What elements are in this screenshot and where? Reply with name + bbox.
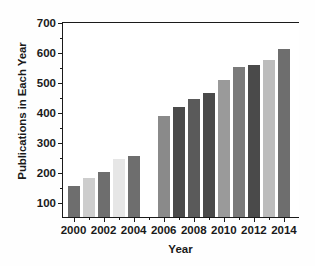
x-tick-minor	[269, 217, 270, 220]
x-tick-minor	[89, 217, 90, 220]
y-tick-label: 100	[37, 197, 56, 209]
y-tick-label: 500	[37, 77, 56, 89]
x-tick-major	[284, 217, 285, 222]
bar-2003	[113, 159, 125, 217]
x-tick-major	[224, 217, 225, 222]
bar-2010	[218, 80, 230, 217]
y-tick-major	[58, 173, 63, 174]
y-tick-major	[58, 53, 63, 54]
x-tick-major	[164, 217, 165, 222]
x-tick-minor	[179, 217, 180, 220]
bar-2009	[203, 93, 215, 217]
x-tick-label: 2012	[241, 224, 267, 236]
bar-2013	[263, 60, 275, 217]
y-tick-major	[58, 143, 63, 144]
x-tick-minor	[119, 217, 120, 220]
x-tick-label: 2014	[271, 224, 297, 236]
y-tick-label: 600	[37, 47, 56, 59]
bar-2000	[68, 186, 80, 217]
x-tick-minor	[209, 217, 210, 220]
y-tick-minor	[60, 98, 63, 99]
y-tick-major	[58, 23, 63, 24]
y-axis-title: Publications in Each Year	[16, 16, 28, 206]
y-tick-major	[58, 113, 63, 114]
bar-2012	[248, 65, 260, 217]
x-tick-major	[74, 217, 75, 222]
x-tick-major	[254, 217, 255, 222]
bar-2004	[128, 156, 140, 217]
y-tick-label: 300	[37, 137, 56, 149]
y-tick-major	[58, 203, 63, 204]
x-tick-label: 2008	[181, 224, 207, 236]
x-tick-label: 2000	[61, 224, 87, 236]
x-tick-major	[134, 217, 135, 222]
x-tick-label: 2002	[91, 224, 117, 236]
bar-2007	[173, 107, 185, 217]
y-tick-label: 700	[37, 17, 56, 29]
x-tick-label: 2006	[151, 224, 177, 236]
y-tick-label: 400	[37, 107, 56, 119]
x-tick-major	[104, 217, 105, 222]
bar-chart-figure: Publications in Each Year 10020030040050…	[0, 0, 315, 266]
bar-2011	[233, 67, 245, 217]
bar-2001	[83, 178, 95, 217]
bar-2014	[278, 49, 290, 217]
x-tick-label: 2010	[211, 224, 237, 236]
x-tick-label: 2004	[121, 224, 147, 236]
y-tick-minor	[60, 188, 63, 189]
y-tick-minor	[60, 38, 63, 39]
y-tick-minor	[60, 68, 63, 69]
y-tick-minor	[60, 128, 63, 129]
x-tick-minor	[149, 217, 150, 220]
x-tick-major	[194, 217, 195, 222]
bar-2002	[98, 172, 110, 217]
plot-area: 1002003004005006007002000200220042006200…	[62, 22, 299, 218]
bar-2008	[188, 99, 200, 218]
x-axis-title: Year	[62, 243, 299, 255]
y-tick-major	[58, 83, 63, 84]
bar-2006	[158, 116, 170, 217]
x-tick-minor	[239, 217, 240, 220]
y-tick-minor	[60, 158, 63, 159]
y-tick-label: 200	[37, 167, 56, 179]
